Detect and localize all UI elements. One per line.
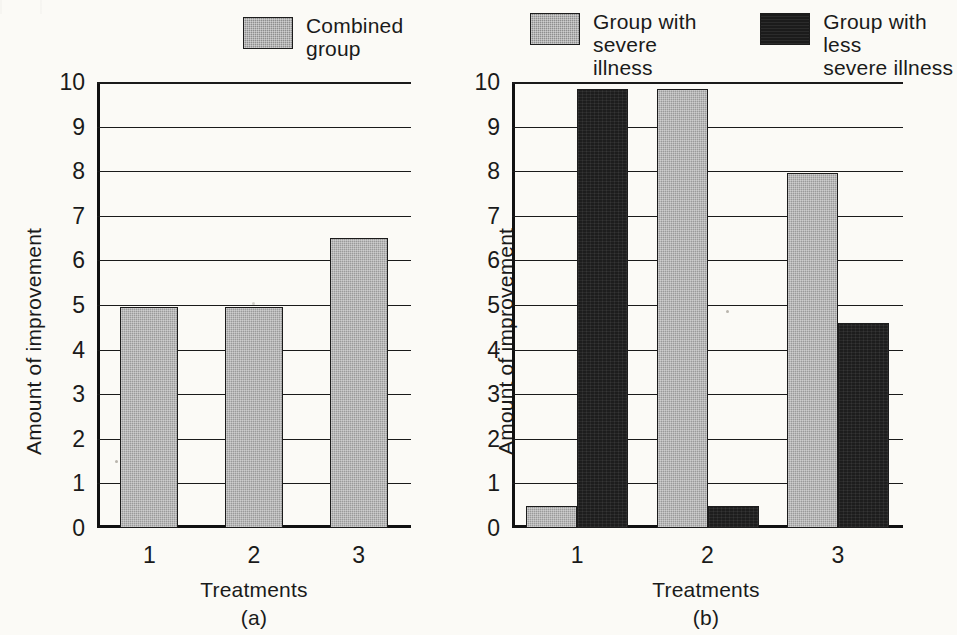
y-axis-tick-label: 5 <box>466 294 500 317</box>
y-axis-tick-label: 3 <box>466 383 500 406</box>
bar-series-1-cat-2 <box>225 307 283 528</box>
legend-item-group-less-severe: Group with less severe illness <box>760 10 957 79</box>
bar-series-2-cat-1 <box>577 89 628 528</box>
x-axis-title-a: Treatments <box>200 578 307 602</box>
chart-panel-b: Group with severe illness Group with les… <box>478 0 957 635</box>
legend-swatch-group-severe-icon <box>530 13 580 45</box>
legend-a: Combined group <box>243 14 403 60</box>
legend-item-combined-group: Combined group <box>243 14 403 60</box>
y-axis-tick-label: 1 <box>51 472 85 495</box>
gridline <box>512 260 903 261</box>
x-axis-tick-label: 2 <box>701 544 714 567</box>
legend-swatch-combined-group-icon <box>243 17 293 49</box>
bar-series-1-cat-1 <box>526 506 577 528</box>
bar-series-1-cat-2 <box>657 89 708 528</box>
scan-speck <box>726 310 729 313</box>
bar-series-2-cat-2 <box>708 506 759 528</box>
x-axis-tick-label: 1 <box>143 544 156 567</box>
y-axis-tick-label: 0 <box>466 517 500 540</box>
x-axis-tick-label: 3 <box>352 544 365 567</box>
legend-b: Group with severe illness Group with les… <box>530 10 957 79</box>
legend-label-group-severe: Group with severe illness <box>593 10 710 79</box>
legend-item-group-severe: Group with severe illness <box>530 10 710 79</box>
y-axis-tick-label: 5 <box>51 294 85 317</box>
legend-label-combined-group: Combined group <box>306 14 403 60</box>
y-axis-tick-label: 1 <box>466 472 500 495</box>
y-axis-tick-label: 4 <box>466 338 500 361</box>
gridline <box>97 82 411 84</box>
y-axis-tick-label: 10 <box>51 71 85 94</box>
x-axis-tick-label: 1 <box>571 544 584 567</box>
y-axis-tick-label: 4 <box>51 338 85 361</box>
bar-series-1-cat-3 <box>787 173 838 528</box>
x-axis-tick-label: 3 <box>831 544 844 567</box>
y-axis-tick-label: 10 <box>466 71 500 94</box>
y-axis-tick-label: 0 <box>51 517 85 540</box>
y-axis-tick-label: 8 <box>466 160 500 183</box>
y-axis-tick-label: 6 <box>51 249 85 272</box>
bar-series-2-cat-3 <box>838 323 889 528</box>
bar-series-1-cat-1 <box>120 307 178 528</box>
y-axis-tick-label: 6 <box>466 249 500 272</box>
figure-page: Combined group Amount of improvement 109… <box>0 0 957 635</box>
y-axis-tick-label: 9 <box>466 115 500 138</box>
y-axis-title-a: Amount of improvement <box>22 228 46 455</box>
y-axis-tick-label: 3 <box>51 383 85 406</box>
y-axis-tick-label: 7 <box>466 204 500 227</box>
gridline <box>97 171 411 172</box>
gridline <box>512 305 903 306</box>
y-axis-tick-label: 8 <box>51 160 85 183</box>
y-axis-tick-label: 7 <box>51 204 85 227</box>
chart-panel-a: Combined group Amount of improvement 109… <box>0 0 478 635</box>
legend-swatch-group-less-severe-icon <box>760 13 810 45</box>
gridline <box>512 82 903 84</box>
y-axis-tick-label: 2 <box>466 427 500 450</box>
gridline <box>512 171 903 172</box>
legend-label-group-less-severe: Group with less severe illness <box>823 10 957 79</box>
panel-tag-b: (b) <box>693 606 719 630</box>
gridline <box>97 216 411 217</box>
gridline <box>512 216 903 217</box>
y-axis-tick-label: 9 <box>51 115 85 138</box>
gridline <box>512 127 903 128</box>
panel-tag-a: (a) <box>241 606 267 630</box>
x-axis-tick-label: 2 <box>248 544 261 567</box>
scan-speck <box>252 302 255 305</box>
y-axis-tick-label: 2 <box>51 427 85 450</box>
gridline <box>97 127 411 128</box>
bar-series-1-cat-3 <box>330 238 388 528</box>
scan-speck <box>115 460 118 463</box>
x-axis-title-b: Treatments <box>652 578 759 602</box>
